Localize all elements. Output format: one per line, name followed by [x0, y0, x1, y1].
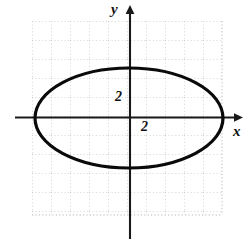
y-axis-label: y — [111, 2, 118, 17]
x-axis-tick-label-2: 2 — [141, 120, 148, 134]
y-axis-tick-label-2: 2 — [115, 90, 122, 104]
x-axis-label: x — [233, 124, 241, 139]
graph-figure: y x 2 2 — [0, 0, 250, 239]
plot-canvas — [0, 0, 250, 239]
